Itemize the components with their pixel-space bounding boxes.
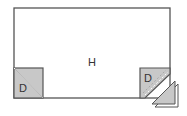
label-h: H (88, 56, 96, 68)
corner-piece-left: D (14, 68, 43, 98)
label-d-right: D (144, 72, 152, 84)
quilt-diagram: D D H (0, 0, 187, 116)
label-d-left: D (19, 82, 27, 94)
